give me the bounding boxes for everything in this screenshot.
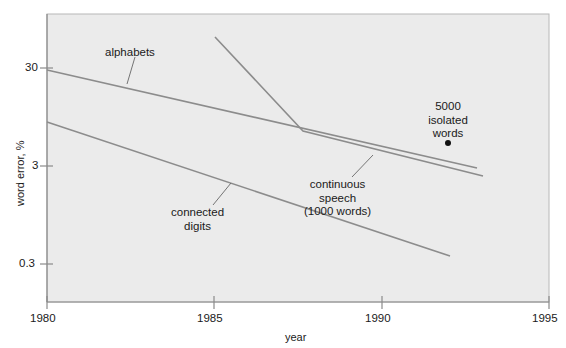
annotation-continuous-speech-line-2: speech — [304, 192, 371, 206]
chart-figure: 30 3 0.3 1980 1985 1990 1995 word error,… — [0, 0, 566, 348]
x-tick-label-1980: 1980 — [30, 312, 56, 324]
x-tick-label-1985: 1985 — [197, 312, 223, 324]
x-axis-title: year — [285, 331, 306, 343]
x-tick-label-1995: 1995 — [532, 312, 558, 324]
x-tick-label-1990: 1990 — [365, 312, 391, 324]
annotation-connected-digits-line-1: connected — [171, 206, 224, 220]
y-axis-title: word error, % — [14, 141, 26, 206]
annotation-connected-digits: connected digits — [171, 206, 224, 233]
annotation-continuous-speech-line-1: continuous — [304, 178, 371, 192]
y-tick-label-30: 30 — [25, 61, 38, 73]
annotation-isolated-words-line-1: 5000 — [418, 100, 478, 114]
annotation-connected-digits-line-2: digits — [171, 220, 224, 234]
data-point-isolated-words — [445, 140, 451, 146]
annotation-alphabets: alphabets — [105, 46, 155, 60]
annotation-continuous-speech: continuous speech (1000 words) — [304, 178, 371, 219]
y-tick-label-0.3: 0.3 — [19, 257, 35, 269]
annotation-isolated-words: 5000 isolated words — [418, 100, 478, 141]
annotation-isolated-words-line-2: isolated — [418, 114, 478, 128]
annotation-isolated-words-line-3: words — [418, 127, 478, 141]
annotation-alphabets-line-1: alphabets — [105, 46, 155, 60]
chart-canvas — [0, 0, 566, 348]
y-tick-label-3: 3 — [32, 159, 38, 171]
annotation-continuous-speech-line-3: (1000 words) — [304, 205, 371, 219]
